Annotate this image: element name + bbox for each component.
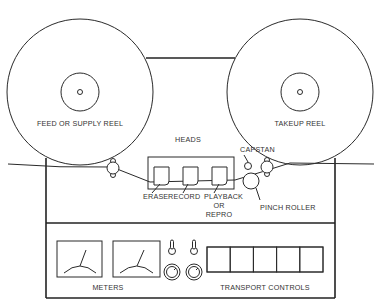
toggle-switch-icon[interactable] bbox=[169, 240, 176, 255]
record-head bbox=[183, 167, 198, 185]
left-tape-guide bbox=[107, 159, 119, 178]
pinch-roller bbox=[243, 173, 259, 189]
pinch-roller-label: PINCH ROLLER bbox=[260, 203, 316, 212]
transport-button[interactable] bbox=[300, 247, 323, 272]
pinch-roller-leader bbox=[256, 188, 260, 200]
knob-icon[interactable] bbox=[164, 264, 180, 280]
playback-label: PLAYBACK bbox=[204, 192, 243, 201]
transport-controls-label: TRANSPORT CONTROLS bbox=[220, 283, 310, 292]
takeup-reel-label: TAKEUP REEL bbox=[274, 119, 325, 128]
meter-left bbox=[57, 241, 102, 277]
transport-controls bbox=[207, 247, 323, 272]
toggle-switch-icon[interactable] bbox=[191, 240, 198, 255]
erase-head bbox=[154, 167, 169, 185]
feed-reel-flange bbox=[7, 19, 153, 165]
playback-head bbox=[212, 167, 227, 185]
transport-button[interactable] bbox=[277, 247, 300, 272]
transport-button[interactable] bbox=[230, 247, 253, 272]
control-panel: METERS TRANSPORT bbox=[57, 240, 323, 292]
meter-needle bbox=[137, 250, 144, 266]
transport-controls-frame bbox=[207, 247, 323, 272]
record-label: RECORD bbox=[168, 192, 200, 201]
takeup-reel: TAKEUP REEL bbox=[227, 19, 373, 165]
playback-or-label: OR bbox=[213, 201, 224, 210]
transport-button[interactable] bbox=[207, 247, 230, 272]
right-tape-guide bbox=[261, 158, 273, 177]
capstan bbox=[245, 163, 252, 170]
capstan-label: CAPSTAN bbox=[240, 145, 275, 154]
meters-label: METERS bbox=[92, 283, 123, 292]
playback-repro-label: REPRO bbox=[206, 210, 233, 219]
meter-needle bbox=[80, 250, 86, 266]
tape-recorder-diagram: FEED OR SUPPLY REEL TAKEUP REEL HEADS ER… bbox=[0, 0, 380, 301]
knob-icon[interactable] bbox=[186, 264, 202, 280]
feed-reel: FEED OR SUPPLY REEL bbox=[7, 19, 153, 165]
heads-label: HEADS bbox=[175, 135, 201, 144]
erase-label: ERASE bbox=[143, 192, 168, 201]
feed-reel-label: FEED OR SUPPLY REEL bbox=[37, 119, 123, 128]
takeup-reel-flange bbox=[227, 19, 373, 165]
transport-button[interactable] bbox=[253, 247, 276, 272]
capstan-leader bbox=[244, 155, 248, 162]
meter-right bbox=[113, 241, 160, 277]
heads-assembly: HEADS ERASE RECORD PLAYBACK OR REPRO bbox=[143, 135, 243, 219]
